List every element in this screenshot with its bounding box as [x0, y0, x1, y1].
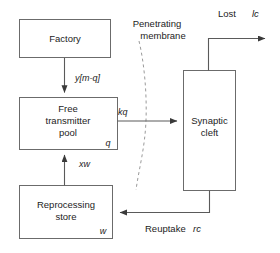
box-free-transmitter-pool-label-line3: pool: [59, 127, 77, 138]
diagram-svg: Factory Free transmitter pool q Reproces…: [0, 0, 280, 253]
box-synaptic-cleft-label-line1: Synaptic: [191, 115, 228, 126]
penetrating-membrane-curve: [136, 41, 146, 190]
arrow-cleft-lost-rate: lc: [252, 8, 259, 19]
flow-diagram-canvas: Factory Free transmitter pool q Reproces…: [0, 0, 280, 253]
box-free-transmitter-pool-variable: q: [105, 138, 110, 148]
arrow-cleft-to-store-label: Reuptake: [145, 223, 186, 234]
box-free-transmitter-pool-label-line2: transmitter: [46, 115, 91, 126]
arrow-cleft-lost-label: Lost: [218, 8, 236, 19]
box-reprocessing-store-label-line1: Reprocessing: [37, 199, 95, 210]
arrow-store-to-pool-label: xw: [78, 159, 91, 169]
box-reprocessing-store-variable: w: [100, 226, 107, 236]
arrow-factory-to-pool-label: y[m-q]: [74, 73, 101, 83]
penetrating-membrane-label-line2: membrane: [140, 30, 185, 41]
box-synaptic-cleft-label-line2: cleft: [201, 127, 219, 138]
box-factory-label: Factory: [49, 33, 81, 44]
penetrating-membrane-label-line1: Penetrating: [133, 18, 182, 29]
box-reprocessing-store-label-line2: store: [55, 211, 76, 222]
arrow-pool-to-cleft-label: kq: [118, 107, 128, 117]
arrow-cleft-to-store: [120, 191, 210, 213]
arrow-cleft-lost: [209, 39, 266, 71]
box-free-transmitter-pool-label-line1: Free: [58, 103, 78, 114]
arrow-cleft-to-store-rate: rc: [193, 223, 201, 234]
